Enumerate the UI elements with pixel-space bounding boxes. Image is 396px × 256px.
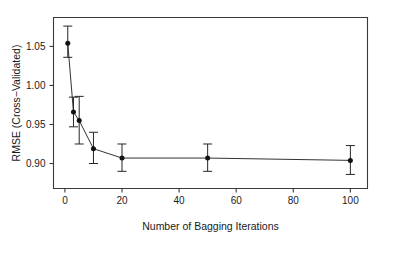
x-tick-label: 100 [342,195,359,206]
x-tick-label: 0 [62,195,68,206]
chart-background [0,0,396,256]
y-tick-label: 1.05 [26,41,46,52]
x-tick-label: 20 [116,195,128,206]
x-axis-title: Number of Bagging Iterations [142,220,279,232]
data-point-marker [91,146,96,151]
y-axis-title: RMSE (Cross−Validated) [10,45,22,162]
data-point-marker [205,156,210,161]
data-point-marker [71,109,76,114]
data-point-marker [348,158,353,163]
y-tick-label: 0.95 [26,119,46,130]
y-tick-label: 1.00 [26,80,46,91]
x-tick-label: 40 [174,195,186,206]
data-point-marker [77,118,82,123]
x-tick-label: 80 [288,195,300,206]
chart-container: 0.900.951.001.05 020406080100 Number of … [0,0,396,256]
y-tick-label: 0.90 [26,158,46,169]
data-point-marker [65,41,70,46]
data-point-marker [120,156,125,161]
rmse-vs-bagging-iterations-chart: 0.900.951.001.05 020406080100 Number of … [0,0,396,256]
x-tick-label: 60 [231,195,243,206]
